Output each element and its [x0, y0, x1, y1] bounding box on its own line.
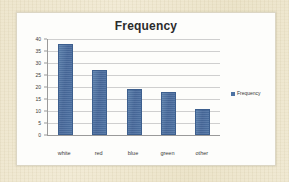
chart-legend: Frequency [231, 91, 261, 96]
y-axis-tick-label: 15 [35, 97, 41, 102]
chart-title: Frequency [17, 19, 275, 33]
screenshot-root: Frequency 4035302520151050 whiteredblueg… [0, 0, 289, 182]
bar-blue[interactable] [127, 89, 142, 135]
x-axis-tick-label: other [196, 150, 209, 156]
x-axis-tick-label: blue [128, 150, 138, 156]
chart-card: Frequency 4035302520151050 whiteredblueg… [16, 12, 276, 166]
x-axis-tick-slot: white [47, 141, 81, 159]
y-axis-tick-label: 25 [35, 73, 41, 78]
x-axis-tick-slot: other [185, 141, 219, 159]
x-axis-tick-slot: red [81, 141, 115, 159]
bar-slot [186, 39, 220, 135]
x-axis-tick-slot: blue [116, 141, 150, 159]
bar-red[interactable] [92, 70, 107, 135]
bar-white[interactable] [58, 44, 73, 135]
legend-swatch-frequency [231, 92, 235, 96]
plot-area [47, 39, 220, 136]
y-axis-tick-label: 0 [38, 133, 41, 138]
y-axis-tick-label: 20 [35, 85, 41, 90]
bar-other[interactable] [195, 109, 210, 135]
y-axis: 4035302520151050 [25, 39, 43, 135]
legend-label-frequency: Frequency [237, 91, 261, 96]
y-axis-tick-label: 5 [38, 121, 41, 126]
y-axis-tick-label: 40 [35, 37, 41, 42]
plot-wrapper: 4035302520151050 whiteredbluegreenother … [25, 39, 269, 159]
x-axis-tick-label: red [95, 150, 103, 156]
bar-series [48, 39, 220, 135]
bar-slot [117, 39, 151, 135]
y-axis-tick-label: 10 [35, 109, 41, 114]
x-axis-tick-label: green [160, 150, 174, 156]
bar-slot [151, 39, 185, 135]
x-axis-tick-slot: green [150, 141, 184, 159]
bar-slot [48, 39, 82, 135]
x-axis-tick-label: white [58, 150, 71, 156]
bar-green[interactable] [161, 92, 176, 135]
y-axis-tick-label: 30 [35, 61, 41, 66]
x-axis: whiteredbluegreenother [47, 141, 219, 159]
bar-slot [82, 39, 116, 135]
y-axis-tick-label: 35 [35, 49, 41, 54]
